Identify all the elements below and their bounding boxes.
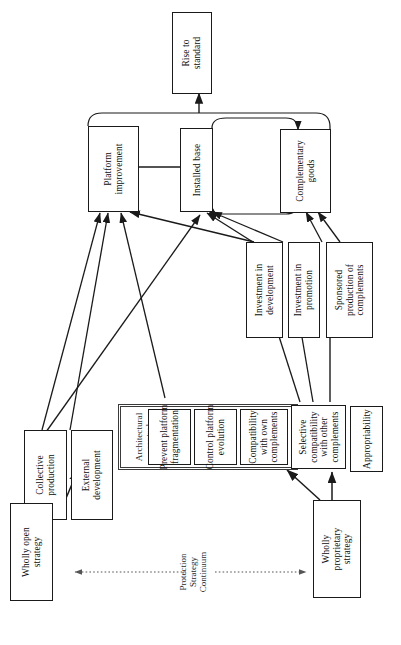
node-investment-in-promotion[interactable]: Investment inpromotion — [288, 242, 320, 338]
node-label: Externaldevelopment — [81, 450, 102, 500]
node-platform-improvement[interactable]: Platformimprovement — [88, 126, 139, 212]
edge-architectural-to-platform — [121, 213, 165, 398]
node-label: Investment indevelopment — [254, 264, 275, 317]
node-prevent-platform-fragmentation[interactable]: Prevent platformfragmentation — [148, 409, 191, 465]
edge-external-to-platform — [70, 213, 108, 430]
node-label: Appropriability — [361, 409, 372, 469]
node-label: Control platformevolution — [205, 405, 226, 470]
edge-investpromo-to-installed — [212, 212, 283, 242]
edge-sponsored-to-complementary-2 — [318, 212, 340, 242]
node-sponsored-production-of-complements[interactable]: Sponsoredproduction ofcomplements — [326, 242, 373, 338]
node-external-development[interactable]: Externaldevelopment — [71, 430, 113, 520]
edge-investdev-to-platform — [130, 212, 254, 242]
edge-proprietary-to-group — [287, 470, 320, 500]
node-label: Sponsoredproduction ofcomplements — [334, 264, 366, 316]
node-selective-compatibility-with-other-complements[interactable]: Selectivecompatibilitywith othercompleme… — [291, 405, 346, 469]
diagram-canvas: Rise tostandard Platformimprovement Inst… — [0, 0, 401, 645]
edge-sponsored-to-complementary — [306, 212, 322, 242]
node-rise-to-standard[interactable]: Rise tostandard — [172, 12, 212, 94]
node-label: Installed base — [191, 144, 202, 197]
axis-label: ProtectionStrategyContinuum — [178, 552, 208, 593]
node-appropriability[interactable]: Appropriability — [350, 406, 383, 472]
node-wholly-proprietary-strategy[interactable]: Whollyproprietarystrategy — [313, 500, 361, 598]
node-compatibility-with-own-complements[interactable]: Compatibilitywith owncomplements — [240, 409, 288, 465]
edge-investdev-to-installed — [207, 213, 256, 244]
node-label: Platformimprovement — [103, 143, 124, 194]
node-label: Wholly openstrategy — [21, 527, 42, 577]
node-label: Selectivecompatibilitywith othercompleme… — [297, 411, 339, 462]
edge-collective-to-installed — [46, 215, 200, 432]
node-label: Prevent platformfragmentation — [159, 405, 180, 470]
node-complementary-goods[interactable]: Complementarygoods — [280, 129, 331, 213]
node-installed-base[interactable]: Installed base — [180, 128, 213, 212]
node-control-platform-evolution[interactable]: Control platformevolution — [194, 409, 237, 465]
axis-label-protection-strategy-continuum: ProtectionStrategyContinuum — [176, 540, 210, 604]
node-label: Compatibilitywith owncomplements — [248, 410, 280, 463]
node-label: Investment inpromotion — [293, 264, 314, 317]
node-investment-in-development[interactable]: Investment indevelopment — [246, 242, 283, 338]
node-label: Rise tostandard — [181, 37, 202, 70]
edge-collective-to-platform — [42, 213, 100, 430]
node-label: Collectiveproduction — [35, 454, 56, 496]
node-label: Complementarygoods — [295, 140, 316, 202]
node-label: Whollyproprietarystrategy — [321, 528, 353, 571]
node-wholly-open-strategy[interactable]: Wholly openstrategy — [10, 503, 53, 601]
